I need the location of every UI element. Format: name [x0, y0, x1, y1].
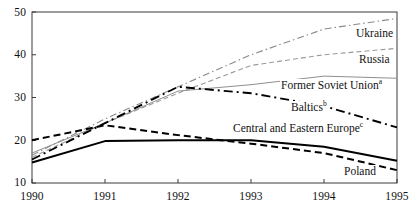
x-tick-label-1995: 1995 — [375, 190, 411, 202]
y-tick-label-40: 40 — [4, 48, 26, 60]
series-label-baltics: Balticsb — [290, 101, 328, 113]
series-label-former-soviet-union-footnote: a — [379, 77, 382, 86]
series-label-russia: Russia — [358, 53, 391, 65]
series-label-russia-text: Russia — [359, 53, 390, 65]
series-label-cee-footnote: c — [360, 120, 363, 129]
series-label-baltics-text: Baltics — [291, 101, 323, 113]
series-label-central-and-eastern-europe: Central and Eastern Europec — [232, 122, 364, 134]
series-label-poland-text: Poland — [344, 165, 376, 177]
y-tick-label-30: 30 — [4, 91, 26, 103]
series-label-poland: Poland — [343, 165, 377, 177]
x-tick-label-1992: 1992 — [156, 190, 200, 202]
y-tick-label-50: 50 — [4, 6, 26, 18]
chart-series-lines — [32, 18, 397, 170]
series-label-ukraine: Ukraine — [355, 27, 394, 39]
series-label-central-and-eastern-europe-text: Central and Eastern Europe — [233, 122, 360, 134]
chart-plot-area — [0, 0, 411, 209]
series-label-baltics-footnote: b — [323, 99, 327, 108]
x-tick-label-1993: 1993 — [229, 190, 273, 202]
series-label-former-soviet-union-text: Former Soviet Union — [281, 79, 379, 91]
x-tick-label-1994: 1994 — [302, 190, 346, 202]
y-tick-label-10: 10 — [4, 176, 26, 188]
series-label-former-soviet-union: Former Soviet Uniona — [280, 79, 383, 91]
series-line-central-and-eastern-europe — [32, 140, 397, 162]
x-tick-label-1990: 1990 — [10, 190, 54, 202]
y-tick-label-20: 20 — [4, 134, 26, 146]
series-label-ukraine-text: Ukraine — [356, 27, 393, 39]
x-tick-label-1991: 1991 — [83, 190, 127, 202]
line-chart: 50 40 30 20 10 1990 1991 1992 1993 1994 … — [0, 0, 411, 209]
